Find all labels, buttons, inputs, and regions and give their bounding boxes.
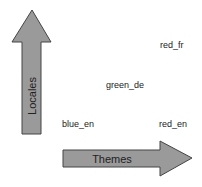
locales-axis-label: Locales — [26, 77, 38, 115]
point-red-en: red_en — [159, 119, 187, 129]
point-red-fr: red_fr — [160, 40, 184, 50]
point-green-de: green_de — [106, 80, 144, 90]
diagram-canvas: Locales Themes — [0, 0, 202, 187]
themes-axis-label: Themes — [92, 153, 132, 165]
point-blue-en: blue_en — [62, 119, 94, 129]
